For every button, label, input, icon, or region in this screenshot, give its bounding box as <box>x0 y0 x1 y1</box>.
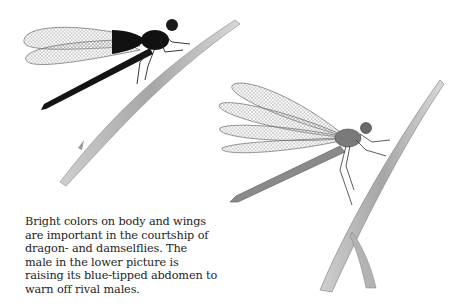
lower-reed-stem <box>320 80 444 292</box>
caption-line: dragon- and damselflies. The <box>25 242 235 256</box>
lower-wings <box>219 83 340 153</box>
caption-line: raising its blue-tipped abdomen to <box>25 269 235 283</box>
lower-head <box>361 123 372 134</box>
lower-damselfly-figure <box>219 80 444 292</box>
lower-abdomen <box>230 146 345 202</box>
caption-line: Bright colors on body and wings <box>25 215 235 229</box>
caption-line: are important in the courtship of <box>25 229 235 243</box>
figure-caption: Bright colors on body and wings are impo… <box>25 215 235 297</box>
caption-line: male in the lower picture is <box>25 256 235 270</box>
upper-wings <box>24 27 145 64</box>
upper-head <box>166 19 178 31</box>
lower-reed-leaf <box>350 232 376 288</box>
caption-line: warn off rival males. <box>25 283 235 297</box>
upper-damselfly-figure <box>24 19 240 186</box>
